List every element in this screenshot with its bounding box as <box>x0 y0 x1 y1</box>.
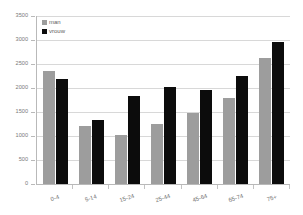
x-tick-label-75+: 75+ <box>266 194 278 204</box>
bar-man-65-74[interactable] <box>223 98 235 184</box>
y-tick-label: 1500 <box>0 108 28 115</box>
x-axis-labels: 0-45-1415-2425-4445-6465-7475+ <box>37 190 290 214</box>
bar-group <box>254 16 290 184</box>
y-tick-label: 3000 <box>0 36 28 43</box>
x-axis-tick <box>218 185 254 189</box>
x-axis-label-cell: 0-4 <box>37 190 73 214</box>
bar-man-5-14[interactable] <box>79 126 91 184</box>
bar-group <box>218 16 254 184</box>
x-axis-label-cell: 15-24 <box>109 190 145 214</box>
x-axis-tick <box>37 185 73 189</box>
y-tick-label: 2000 <box>0 84 28 91</box>
y-tick-label: 3500 <box>0 12 28 19</box>
bar-groups <box>37 16 290 184</box>
y-tick-mark <box>31 16 35 17</box>
bar-man-0-4[interactable] <box>43 71 55 184</box>
x-axis-label-cell: 25-44 <box>145 190 181 214</box>
bar-group <box>182 16 218 184</box>
legend-label: vrouw <box>49 28 65 35</box>
y-tick-mark <box>31 40 35 41</box>
y-tick-label: 2500 <box>0 60 28 67</box>
legend-label: man <box>49 19 61 26</box>
x-tick-label-0-4: 0-4 <box>50 194 60 203</box>
y-tick-mark <box>31 184 35 185</box>
bar-man-15-24[interactable] <box>115 135 127 184</box>
bar-chart: 0500100015002000250030003500 0-45-1415-2… <box>0 0 303 215</box>
y-tick-label: 1000 <box>0 132 28 139</box>
x-tick-label-25-44: 25-44 <box>155 193 172 204</box>
bar-vrouw-25-44[interactable] <box>164 87 176 184</box>
bar-group <box>109 16 145 184</box>
x-axis-tick <box>182 185 218 189</box>
bar-man-45-64[interactable] <box>187 113 199 184</box>
x-axis-ticks <box>37 185 290 189</box>
x-axis-tick <box>73 185 109 189</box>
y-tick-label: 500 <box>0 156 28 163</box>
bar-vrouw-15-24[interactable] <box>128 96 140 184</box>
bar-group <box>73 16 109 184</box>
bar-vrouw-45-64[interactable] <box>200 90 212 184</box>
bar-vrouw-75+[interactable] <box>272 42 284 184</box>
bar-man-75+[interactable] <box>259 58 271 184</box>
legend-item-man[interactable]: man <box>42 19 65 26</box>
x-tick-label-65-74: 65-74 <box>227 193 244 204</box>
y-tick-mark <box>31 160 35 161</box>
x-axis-label-cell: 75+ <box>254 190 290 214</box>
x-tick-label-15-24: 15-24 <box>119 193 136 204</box>
y-tick-mark <box>31 136 35 137</box>
x-axis-tick <box>109 185 145 189</box>
legend-swatch-icon <box>42 29 47 34</box>
x-axis-label-cell: 5-14 <box>73 190 109 214</box>
y-tick-mark <box>31 64 35 65</box>
y-tick-label: 0 <box>0 180 28 187</box>
x-axis-tick <box>145 185 181 189</box>
x-axis-label-cell: 45-64 <box>182 190 218 214</box>
x-axis-label-cell: 65-74 <box>218 190 254 214</box>
bar-group <box>37 16 73 184</box>
legend-swatch-icon <box>42 20 47 25</box>
y-tick-mark <box>31 88 35 89</box>
y-tick-mark <box>31 112 35 113</box>
x-axis-tick <box>254 185 290 189</box>
bar-group <box>145 16 181 184</box>
bar-vrouw-0-4[interactable] <box>56 79 68 184</box>
legend-item-vrouw[interactable]: vrouw <box>42 28 65 35</box>
x-tick-mark <box>289 185 290 189</box>
bar-vrouw-65-74[interactable] <box>236 76 248 184</box>
chart-legend: manvrouw <box>42 19 65 35</box>
bar-vrouw-5-14[interactable] <box>92 120 104 184</box>
x-tick-label-5-14: 5-14 <box>84 193 98 203</box>
x-tick-label-45-64: 45-64 <box>191 193 208 204</box>
bar-man-25-44[interactable] <box>151 124 163 184</box>
